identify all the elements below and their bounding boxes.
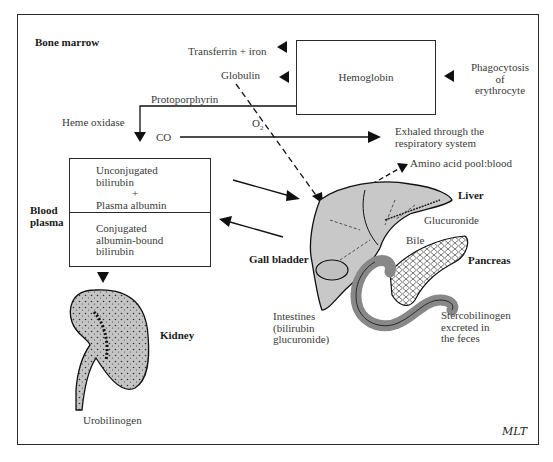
hemoglobin-label: Hemoglobin bbox=[296, 71, 436, 83]
globulin-label: Globulin bbox=[221, 69, 260, 81]
blood-plasma-label: Blood plasma bbox=[30, 204, 64, 228]
stercobilinogen-line1: Stercobilinogen bbox=[441, 310, 511, 322]
artist-signature: MLT bbox=[502, 425, 527, 438]
bile-label: Bile bbox=[406, 234, 424, 246]
kidney-illustration bbox=[70, 290, 148, 410]
intestines-label: Intestines (bilirubin glucuronide) bbox=[273, 311, 329, 346]
kidney-label: Kidney bbox=[160, 329, 194, 341]
bone-marrow-label: Bone marrow bbox=[35, 36, 99, 48]
blood-plasma-line1: Blood bbox=[30, 204, 64, 216]
unconjugated-label: Unconjugated bilirubin + Plasma albumin bbox=[96, 165, 167, 211]
pancreas-label: Pancreas bbox=[468, 254, 511, 266]
o2-label: O2 bbox=[252, 117, 263, 134]
plasma-top-line4: Plasma albumin bbox=[96, 200, 167, 212]
phagocytosis-line1: Phagocytosis bbox=[460, 62, 540, 74]
intestines-line1: Intestines bbox=[273, 311, 329, 323]
gall-bladder-label: Gall bladder bbox=[249, 253, 309, 265]
phagocytosis-label: Phagocytosis of erythrocyte bbox=[460, 62, 540, 97]
urobilinogen-label: Urobilinogen bbox=[83, 414, 142, 426]
blood-plasma-line2: plasma bbox=[30, 216, 64, 228]
arrowhead-exhaled-icon bbox=[368, 131, 381, 143]
co-label: CO bbox=[156, 131, 171, 143]
liver-label: Liver bbox=[458, 189, 484, 201]
stercobilinogen-line3: the feces bbox=[441, 333, 511, 345]
plasma-top-plus: + bbox=[96, 188, 167, 200]
plasma-top-line1: Unconjugated bbox=[96, 165, 167, 177]
plasma-bottom-line1: Conjugated bbox=[96, 223, 163, 235]
liver-to-plasma-arrow bbox=[230, 222, 283, 237]
phagocytosis-line3: erythrocyte bbox=[460, 85, 540, 97]
arrowhead-down-icon bbox=[134, 132, 146, 142]
plasma-box-divider bbox=[69, 212, 211, 213]
plasma-to-liver-arrow bbox=[233, 180, 290, 196]
protoporphyrin-line bbox=[140, 106, 297, 134]
arrowhead-liver-plasma-icon bbox=[219, 216, 232, 227]
exhaled-line1: Exhaled through the bbox=[395, 126, 484, 138]
heme-oxidase-label: Heme oxidase bbox=[62, 116, 125, 128]
arrowhead-kidney-icon bbox=[97, 272, 109, 283]
intestines-line3: glucuronide) bbox=[273, 334, 329, 346]
stercobilinogen-label: Stercobilinogen excreted in the feces bbox=[441, 310, 511, 345]
amino-acid-label: Amino acid pool:blood bbox=[410, 157, 512, 169]
pancreas-illustration bbox=[390, 236, 468, 305]
transferrin-label: Transferrin + iron bbox=[188, 45, 267, 57]
exhaled-label: Exhaled through the respiratory system bbox=[395, 126, 484, 149]
arrowhead-phagocytosis-icon bbox=[444, 70, 454, 82]
protoporphyrin-label: Protoporphyrin bbox=[151, 93, 218, 105]
arrowhead-transferrin-icon bbox=[277, 41, 287, 53]
o2-subscript: 2 bbox=[260, 124, 264, 132]
o2-symbol: O bbox=[252, 117, 260, 129]
arrowhead-amino-icon bbox=[397, 163, 408, 173]
arrowhead-plasma-liver-icon bbox=[286, 190, 300, 201]
arrowhead-globulin-icon bbox=[279, 71, 289, 83]
glucuronide-label: Glucuronide bbox=[424, 214, 479, 226]
exhaled-line2: respiratory system bbox=[395, 138, 484, 150]
conjugated-label: Conjugated albumin-bound bilirubin bbox=[96, 223, 163, 258]
plasma-bottom-line3: bilirubin bbox=[96, 246, 163, 258]
